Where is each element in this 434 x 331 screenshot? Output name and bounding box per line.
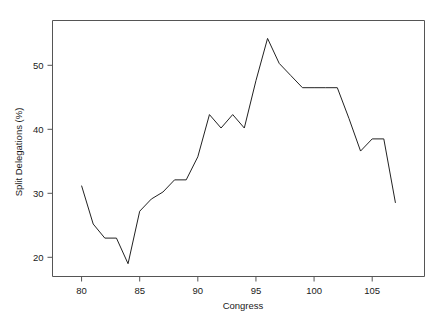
x-tick-label: 80 xyxy=(76,285,87,296)
x-axis-title: Congress xyxy=(223,300,264,311)
x-tick-label: 90 xyxy=(193,285,204,296)
chart-container: 80859095100105 20304050 Congress Split D… xyxy=(0,0,434,331)
y-axis-ticks: 20304050 xyxy=(33,60,53,263)
line-chart: 80859095100105 20304050 Congress Split D… xyxy=(0,0,434,331)
y-tick-label: 20 xyxy=(33,252,44,263)
y-tick-label: 30 xyxy=(33,188,44,199)
data-series-line xyxy=(82,38,396,263)
y-tick-label: 50 xyxy=(33,60,44,71)
x-tick-label: 100 xyxy=(306,285,322,296)
x-tick-label: 105 xyxy=(364,285,380,296)
y-axis-title: Split Delegations (%) xyxy=(13,108,24,197)
y-tick-label: 40 xyxy=(33,124,44,135)
x-tick-label: 85 xyxy=(134,285,145,296)
x-axis-ticks: 80859095100105 xyxy=(76,277,380,296)
x-tick-label: 95 xyxy=(251,285,262,296)
